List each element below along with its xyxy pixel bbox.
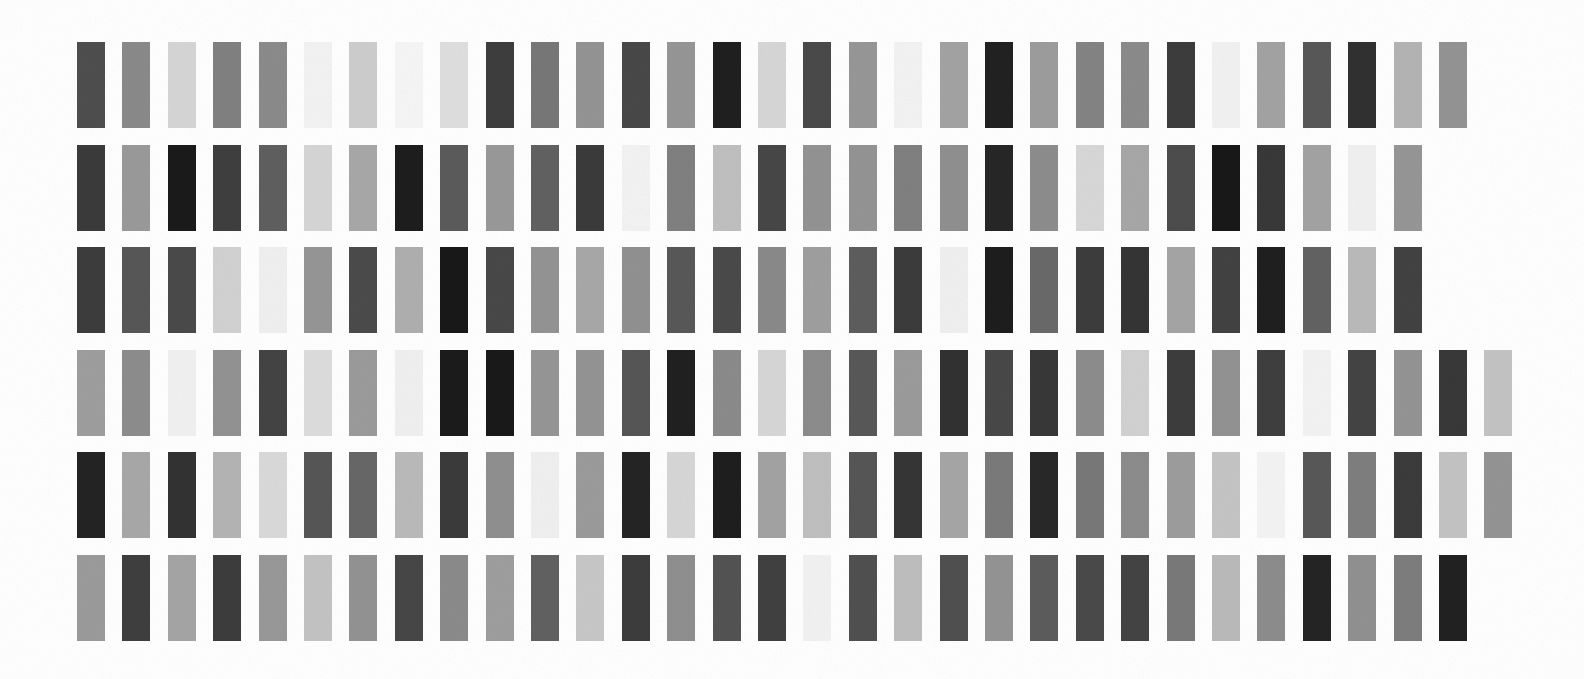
swatch-cell (894, 555, 922, 641)
swatch-cell (713, 555, 741, 641)
swatch-cell (894, 350, 922, 436)
swatch-cell (349, 145, 377, 231)
swatch-row (0, 452, 1584, 538)
swatch-cell (1303, 555, 1331, 641)
swatch-cell (667, 42, 695, 128)
swatch-cell (1394, 452, 1422, 538)
swatch-cell (1303, 145, 1331, 231)
swatch-cell (1257, 350, 1285, 436)
swatch-cell (803, 452, 831, 538)
swatch-cell (985, 350, 1013, 436)
swatch-cell (576, 452, 604, 538)
swatch-cell (259, 42, 287, 128)
swatch-cell (440, 555, 468, 641)
swatch-cell (1030, 42, 1058, 128)
swatch-cell (758, 247, 786, 333)
swatch-cell (1348, 247, 1376, 333)
swatch-cell (940, 555, 968, 641)
swatch-cell (622, 42, 650, 128)
swatch-cell (1484, 452, 1512, 538)
swatch-cell (531, 452, 559, 538)
swatch-cell (395, 145, 423, 231)
swatch-cell (667, 350, 695, 436)
swatch-cell (213, 42, 241, 128)
swatch-cell (622, 247, 650, 333)
swatch-cell (1394, 42, 1422, 128)
swatch-cell (1030, 350, 1058, 436)
swatch-cell (77, 350, 105, 436)
swatch-cell (531, 145, 559, 231)
swatch-cell (1257, 555, 1285, 641)
swatch-cell (894, 42, 922, 128)
swatch-cell (259, 350, 287, 436)
swatch-cell (77, 452, 105, 538)
swatch-cell (1121, 555, 1149, 641)
swatch-cell (1257, 42, 1285, 128)
swatch-cell (77, 145, 105, 231)
swatch-cell (1030, 145, 1058, 231)
swatch-row (0, 145, 1584, 231)
swatch-cell (849, 42, 877, 128)
swatch-cell (1030, 247, 1058, 333)
swatch-cell (758, 452, 786, 538)
swatch-cell (349, 350, 377, 436)
swatch-row (0, 350, 1584, 436)
swatch-cell (803, 555, 831, 641)
swatch-cell (985, 42, 1013, 128)
swatch-cell (213, 350, 241, 436)
swatch-cell (1394, 350, 1422, 436)
swatch-cell (894, 452, 922, 538)
swatch-cell (849, 452, 877, 538)
swatch-cell (349, 555, 377, 641)
swatch-cell (1121, 145, 1149, 231)
swatch-cell (713, 350, 741, 436)
swatch-cell (349, 452, 377, 538)
swatch-cell (440, 452, 468, 538)
swatch-cell (576, 555, 604, 641)
swatch-cell (849, 247, 877, 333)
swatch-cell (1121, 452, 1149, 538)
swatch-cell (1121, 247, 1149, 333)
swatch-cell (1212, 350, 1240, 436)
swatch-cell (713, 247, 741, 333)
swatch-cell (1167, 452, 1195, 538)
swatch-cell (849, 350, 877, 436)
swatch-cell (168, 145, 196, 231)
swatch-cell (1257, 247, 1285, 333)
swatch-cell (531, 247, 559, 333)
swatch-cell (1439, 350, 1467, 436)
swatch-cell (985, 555, 1013, 641)
swatch-cell (486, 42, 514, 128)
swatch-cell (1030, 452, 1058, 538)
swatch-cell (395, 555, 423, 641)
swatch-cell (168, 555, 196, 641)
swatch-cell (531, 555, 559, 641)
swatch-cell (122, 42, 150, 128)
swatch-cell (576, 42, 604, 128)
swatch-cell (622, 452, 650, 538)
swatch-cell (168, 247, 196, 333)
swatch-cell (1484, 350, 1512, 436)
swatch-cell (1257, 452, 1285, 538)
swatch-cell (667, 145, 695, 231)
swatch-cell (1076, 247, 1104, 333)
swatch-cell (213, 145, 241, 231)
swatch-cell (486, 452, 514, 538)
swatch-cell (1167, 42, 1195, 128)
swatch-cell (713, 42, 741, 128)
swatch-cell (1076, 452, 1104, 538)
swatch-cell (213, 452, 241, 538)
swatch-cell (1348, 145, 1376, 231)
swatch-cell (168, 42, 196, 128)
swatch-cell (1303, 247, 1331, 333)
swatch-cell (213, 247, 241, 333)
swatch-cell (894, 145, 922, 231)
swatch-cell (395, 42, 423, 128)
swatch-cell (758, 555, 786, 641)
swatch-cell (1303, 452, 1331, 538)
swatch-row (0, 555, 1584, 641)
swatch-cell (122, 555, 150, 641)
swatch-cell (395, 452, 423, 538)
swatch-cell (531, 42, 559, 128)
swatch-cell (395, 247, 423, 333)
